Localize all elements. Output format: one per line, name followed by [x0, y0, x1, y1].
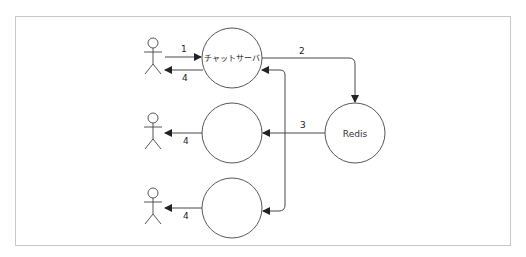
redis-label: Redis — [343, 129, 368, 139]
edge-1-label: 1 — [181, 44, 187, 54]
edge-2-label: 2 — [299, 46, 305, 56]
architecture-diagram: チャットサーバ Redis 1 4 2 3 4 4 — [0, 0, 526, 257]
edge-4c-label: 4 — [183, 211, 189, 221]
edge-4b-label: 4 — [183, 136, 189, 146]
chat-server-label: チャットサーバ — [204, 54, 260, 63]
server-node-2 — [202, 103, 262, 163]
edge-3-label: 3 — [300, 120, 306, 130]
server-node-3 — [202, 178, 262, 238]
edge-4a-label: 4 — [182, 73, 188, 83]
